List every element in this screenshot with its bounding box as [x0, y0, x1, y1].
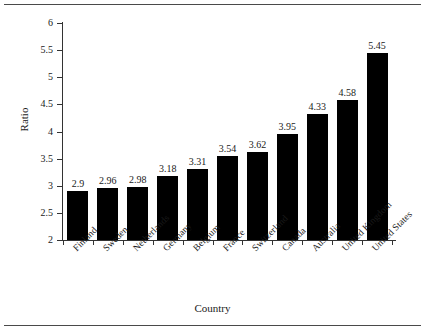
bar-value-label: 2.98 [118, 175, 158, 185]
x-axis-tick [183, 241, 184, 245]
bar[interactable] [247, 152, 268, 240]
y-axis-tick-label: 5.5 [41, 45, 54, 55]
x-axis-tick [272, 241, 273, 245]
bar-group[interactable]: 4.58 [337, 23, 358, 240]
bar-group[interactable]: 3.62 [247, 23, 268, 240]
bar-group[interactable]: 3.95 [277, 23, 298, 240]
x-axis-tick [392, 241, 393, 245]
x-axis-tick [332, 241, 333, 245]
bar-value-label: 3.95 [267, 122, 307, 132]
top-rule [4, 4, 421, 5]
y-axis-tick [57, 159, 62, 160]
y-axis-tick [57, 213, 62, 214]
y-axis-tick [57, 50, 62, 51]
x-axis-tick [153, 241, 154, 245]
y-axis-tick-label: 2.5 [41, 208, 54, 218]
x-axis-tick [242, 241, 243, 245]
bar-group[interactable]: 2.9 [67, 23, 88, 240]
y-axis-tick-label: 2 [48, 235, 53, 245]
bar-value-label: 4.58 [327, 88, 367, 98]
bar-group[interactable]: 4.33 [307, 23, 328, 240]
y-axis-tick [57, 240, 62, 241]
y-axis-tick-label: 3 [48, 181, 53, 191]
bar-value-label: 3.31 [178, 157, 218, 167]
bar-group[interactable]: 3.31 [187, 23, 208, 240]
x-axis-tick [63, 241, 64, 245]
x-axis-tick [93, 241, 94, 245]
x-axis-tick [123, 241, 124, 245]
plot-area: 2.92.962.983.183.313.543.623.954.334.585… [63, 23, 392, 240]
x-axis-tick [213, 241, 214, 245]
y-axis-title: Ratio [19, 90, 30, 150]
bar-group[interactable]: 3.54 [217, 23, 238, 240]
y-axis-tick-label: 4 [48, 127, 53, 137]
x-axis-tick [362, 241, 363, 245]
figure-container: 22.533.544.555.56 2.92.962.983.183.313.5… [0, 0, 425, 334]
bar-value-label: 4.33 [297, 102, 337, 112]
bar-group[interactable]: 2.96 [97, 23, 118, 240]
x-axis-tick [302, 241, 303, 245]
y-axis-tick [57, 104, 62, 105]
y-axis-tick [57, 77, 62, 78]
bar-group[interactable]: 2.98 [127, 23, 148, 240]
bar[interactable] [307, 114, 328, 240]
bar-value-label: 3.62 [237, 140, 277, 150]
y-axis-tick-label: 5 [48, 72, 53, 82]
y-axis-tick-label: 4.5 [41, 99, 54, 109]
y-axis-tick [57, 23, 62, 24]
x-axis-title: Country [0, 303, 425, 314]
y-axis-tick-label: 6 [48, 18, 53, 28]
bottom-rule [4, 325, 421, 326]
y-axis-tick-label: 3.5 [41, 154, 54, 164]
bar[interactable] [337, 100, 358, 240]
bar-group[interactable]: 3.18 [157, 23, 178, 240]
bar-value-label: 5.45 [357, 41, 397, 51]
y-axis-tick [57, 132, 62, 133]
